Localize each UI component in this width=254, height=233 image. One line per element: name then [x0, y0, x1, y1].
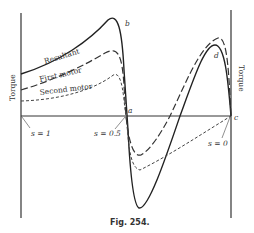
figure-caption: Fig. 254.: [110, 218, 150, 227]
torque-slip-diagram: Resultant First motor Second motor Torqu…: [0, 0, 254, 233]
slip-label-05: s = 0.5: [94, 129, 121, 138]
slip-label-0: s = 0: [208, 139, 228, 148]
first-motor-label: First motor: [38, 65, 82, 84]
s0-leader: [222, 117, 230, 138]
second-motor-label: Second motor: [39, 82, 93, 97]
s05-leader: [115, 117, 125, 129]
right-torque-label: Torque: [237, 65, 246, 92]
left-torque-label: Torque: [8, 74, 17, 101]
s1-leader: [22, 117, 30, 128]
point-d: d: [214, 51, 219, 60]
point-b: b: [125, 19, 130, 28]
point-c: c: [234, 113, 239, 122]
point-a: a: [128, 106, 132, 115]
resultant-label: Resultant: [43, 47, 81, 66]
slip-label-1: s = 1: [31, 129, 51, 138]
